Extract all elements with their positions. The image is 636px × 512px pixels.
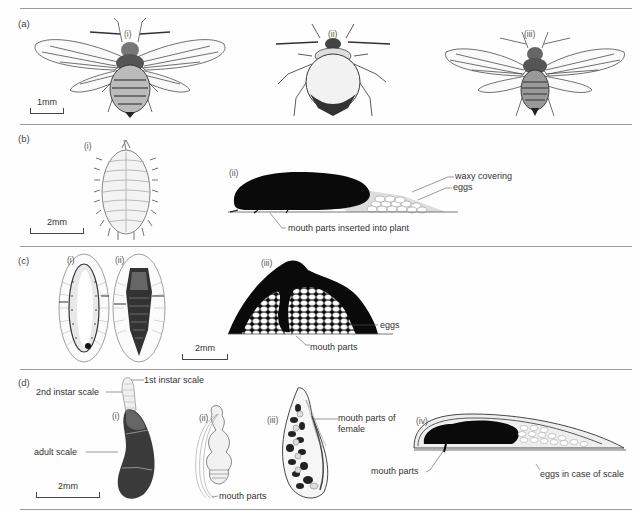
annotation-eggs-in-case-of-scale: eggs in case of scale: [540, 470, 624, 479]
annotation-mouth-parts-d-iv: mouth parts: [371, 467, 419, 476]
leaders-panel-d-right: [0, 0, 636, 512]
